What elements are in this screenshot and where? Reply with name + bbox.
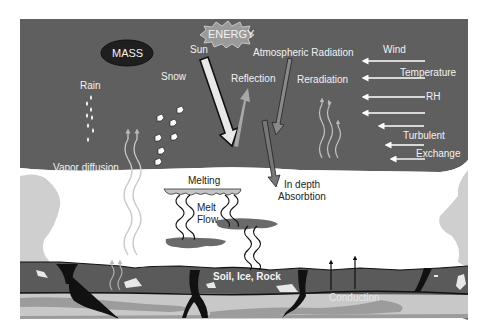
mass-label: MASS [112, 48, 143, 59]
rain-label: Rain [80, 80, 101, 91]
turbulent-label: Turbulent [403, 130, 445, 141]
snowpack-region [20, 160, 468, 270]
absorbtion-label: Absorbtion [278, 191, 326, 202]
reflection-label: Reflection [231, 73, 275, 84]
rh-label: RH [426, 91, 440, 102]
sun-label: Sun [190, 44, 208, 55]
in-depth-label: In depth [284, 179, 320, 190]
melt-label: Melt [197, 202, 216, 213]
soil-ice-rock-label: Soil, Ice, Rock [213, 271, 281, 282]
melting-label: Melting [188, 175, 220, 186]
snow-label: Snow [161, 71, 186, 82]
exchange-label: Exchange [416, 148, 460, 159]
wind-label: Wind [383, 44, 406, 55]
rock-fragment [434, 275, 438, 277]
energy-label: ENERGY [208, 29, 254, 40]
conduction-label: Conduction [329, 292, 380, 303]
temperature-label: Temperature [400, 67, 456, 78]
vapor-diffusion-label: Vapor diffusion [53, 162, 119, 173]
atmospheric-radiation-label: Atmospheric Radiation [253, 47, 354, 58]
reradiation-label: Reradiation [297, 74, 348, 85]
flow-label: Flow [197, 214, 218, 225]
